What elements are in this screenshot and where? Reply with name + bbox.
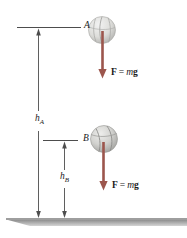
force-a-gravity-symbol: g — [133, 67, 138, 77]
height-b-label: hB — [60, 172, 69, 182]
force-b-gravity-symbol: g — [134, 180, 139, 190]
height-a-arrowhead-up-icon — [36, 29, 41, 36]
force-equation-b: F=mg — [112, 181, 139, 191]
point-a-label: A — [84, 21, 90, 31]
physics-figure: A B hA hB F=mg F=mg — [0, 0, 187, 238]
diagram-canvas — [0, 0, 187, 238]
height-b-subscript: B — [65, 176, 69, 184]
point-b-label: B — [83, 134, 89, 144]
force-a-equals: = — [119, 67, 124, 77]
force-equation-a: F=mg — [111, 68, 138, 78]
height-a-arrowhead-down-icon — [36, 211, 41, 218]
height-a-label: hA — [35, 114, 44, 124]
force-b-equals: = — [120, 180, 125, 190]
force-b-vector-symbol: F — [112, 180, 118, 190]
ground-shading — [8, 220, 187, 226]
height-b-arrowhead-down-icon — [62, 211, 67, 218]
height-b-arrowhead-up-icon — [62, 142, 67, 149]
force-a-vector-symbol: F — [111, 67, 117, 77]
height-a-subscript: A — [40, 118, 44, 126]
